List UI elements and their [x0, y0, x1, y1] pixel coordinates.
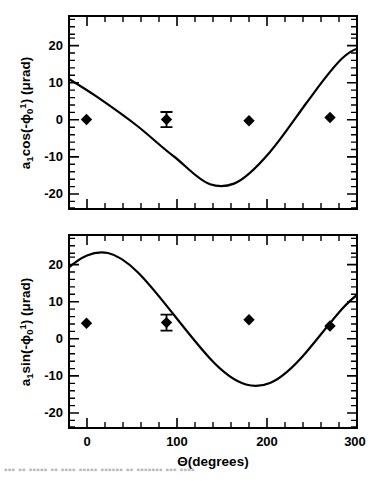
bottom-y-ticklabel-neg20: -20: [44, 405, 63, 420]
bottom-y-ticklabel-0: 0: [56, 331, 63, 346]
top-ylabel-close: ) (μrad): [18, 57, 33, 104]
bottom-panel-y-ticklabels: 20 10 0 -10 -20: [44, 257, 63, 420]
data-point: [81, 318, 92, 329]
top-panel: 20 10 0 -10 -20: [17, 16, 357, 209]
bottom-ylabel-phi: ϕ: [18, 335, 33, 345]
top-ylabel-phi: ϕ: [18, 114, 33, 124]
bottom-panel-data-series: [81, 314, 336, 332]
data-point: [324, 112, 335, 123]
svg-text:a1cos(-ϕ01) (μrad): a1cos(-ϕ01) (μrad): [17, 57, 35, 169]
bottom-panel: 20 10 0 -10 -20: [17, 235, 366, 469]
bottom-y-ticklabel-10: 10: [49, 294, 63, 309]
x-ticklabel-100: 100: [166, 434, 188, 449]
figure-container: 20 10 0 -10 -20: [0, 0, 387, 481]
top-panel-fit-curve: [69, 49, 357, 186]
top-y-ticklabel-neg20: -20: [44, 186, 63, 201]
bottom-y-ticklabel-20: 20: [49, 257, 63, 272]
top-panel-frame: [69, 16, 357, 209]
top-y-ticklabel-10: 10: [49, 75, 63, 90]
clipped-caption-strip: ▪▪▪ ▪▪ ▪▪▪▪▪ ▪▪ ▪▪▪▪ ▪▪▪▪▪ ▪▪▪▪▪▪ ▪▪ ▪▪▪…: [0, 467, 387, 481]
bottom-y-ticklabel-neg10: -10: [44, 368, 63, 383]
top-ylabel-func: cos(-: [18, 124, 33, 156]
data-point: [243, 314, 254, 325]
bottom-panel-x-ticklabels: 0 100 200 300: [83, 434, 365, 449]
x-ticklabel-200: 200: [256, 434, 278, 449]
top-panel-ylabel-group: a1cos(-ϕ01) (μrad): [17, 57, 35, 169]
bottom-ylabel-close: ) (μrad): [18, 278, 33, 325]
data-point: [324, 320, 335, 331]
data-point: [81, 114, 92, 125]
bottom-ylabel-func: sin(-: [18, 345, 33, 374]
bottom-panel-fit-curve: [69, 252, 357, 386]
two-panel-sinusoid-figure: 20 10 0 -10 -20: [0, 0, 387, 481]
data-point: [161, 315, 173, 331]
top-y-ticklabel-0: 0: [56, 112, 63, 127]
clipped-caption-text: ▪▪▪ ▪▪ ▪▪▪▪▪ ▪▪ ▪▪▪▪ ▪▪▪▪▪ ▪▪▪▪▪▪ ▪▪ ▪▪▪…: [4, 467, 195, 475]
svg-text:a1sin(-ϕ01) (μrad): a1sin(-ϕ01) (μrad): [17, 278, 35, 387]
x-ticklabel-0: 0: [83, 434, 90, 449]
bottom-panel-ticks: [69, 235, 357, 428]
x-ticklabel-300: 300: [344, 434, 366, 449]
top-panel-y-ticklabels: 20 10 0 -10 -20: [44, 38, 63, 201]
bottom-panel-ylabel-group: a1sin(-ϕ01) (μrad): [17, 278, 35, 387]
data-point: [243, 115, 254, 126]
top-panel-ticks: [69, 16, 357, 209]
bottom-panel-frame: [69, 235, 357, 428]
top-y-ticklabel-20: 20: [49, 38, 63, 53]
data-point: [161, 112, 173, 127]
top-y-ticklabel-neg10: -10: [44, 149, 63, 164]
